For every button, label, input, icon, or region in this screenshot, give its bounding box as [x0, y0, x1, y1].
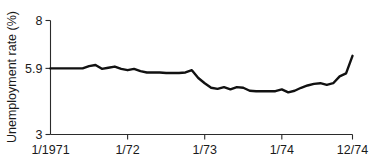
x-tick-label: 1/74	[270, 143, 294, 157]
x-tick-labels: 1/19711/721/731/7412/74	[31, 143, 368, 157]
chart-canvas: 35.98 1/19711/721/731/7412/74 Unemployme…	[0, 0, 371, 166]
y-axis-title: Unemployment rate (%)	[5, 11, 19, 143]
x-tick-marks	[128, 135, 353, 140]
y-tick-label: 3	[36, 128, 43, 142]
x-tick-label: 1/73	[193, 143, 217, 157]
unemployment-rate-line	[51, 56, 353, 92]
y-tick-label: 5.9	[25, 62, 42, 76]
y-tick-marks	[46, 21, 51, 135]
x-tick-label: 1/72	[115, 143, 139, 157]
y-tick-labels: 35.98	[25, 14, 42, 142]
unemployment-rate-chart: 35.98 1/19711/721/731/7412/74 Unemployme…	[0, 0, 371, 166]
x-tick-label: 12/74	[337, 143, 368, 157]
x-tick-label: 1/1971	[31, 143, 69, 157]
y-tick-label: 8	[36, 14, 43, 28]
series-group	[51, 56, 353, 92]
